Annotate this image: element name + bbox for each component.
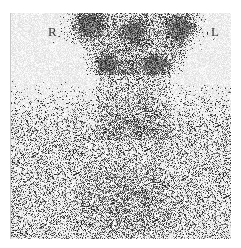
scintigraphy-image: R L — [0, 0, 241, 248]
right-side-label: R — [48, 25, 57, 38]
scan-canvas — [0, 0, 241, 248]
left-side-label: L — [211, 25, 219, 38]
